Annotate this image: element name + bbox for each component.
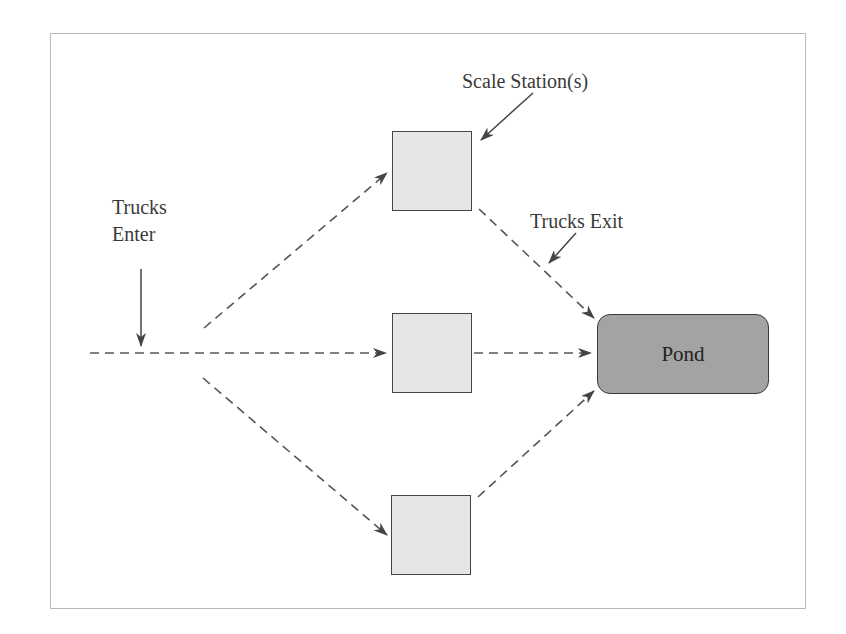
- pond-label: Pond: [661, 342, 704, 367]
- bottom-to-pond-arrow: [478, 391, 594, 497]
- scale-station-middle: [392, 313, 472, 393]
- entry-to-bottom-arrow: [203, 378, 387, 535]
- scale-stations-label: Scale Station(s): [462, 69, 588, 93]
- entry-to-top-arrow: [204, 173, 387, 328]
- trucks-exit-label: Trucks Exit: [530, 209, 623, 233]
- trucks-exit-pointer: [549, 233, 576, 263]
- trucks-enter-label-line2: Enter: [112, 222, 155, 246]
- trucks-enter-label-line1: Trucks: [112, 195, 167, 219]
- scale-station-pointer: [481, 93, 533, 140]
- pond-node: Pond: [597, 314, 769, 394]
- scale-station-top: [392, 131, 472, 211]
- scale-station-bottom: [391, 495, 471, 575]
